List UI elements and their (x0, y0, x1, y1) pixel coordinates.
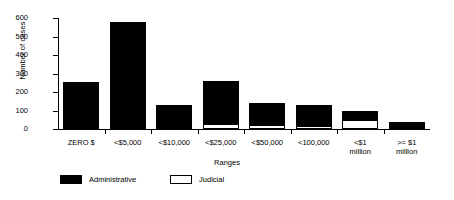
y-axis-tick (53, 111, 58, 112)
x-axis-tick-label: <$1 million (337, 138, 384, 156)
x-axis-tick-label: <$25,000 (198, 138, 245, 147)
legend-swatch-hollow (170, 175, 192, 184)
bar-group[interactable] (203, 81, 239, 129)
x-axis-tick-label: <$10,000 (151, 138, 198, 147)
legend-swatch-filled (60, 175, 82, 184)
bar-segment-administrative[interactable] (156, 105, 192, 129)
bar-segment-administrative[interactable] (203, 81, 239, 124)
y-axis-tick-label: 100 (0, 107, 28, 115)
bar-group[interactable] (63, 82, 99, 129)
x-axis-title: Ranges (0, 158, 454, 167)
y-axis-tick-label: 600 (0, 14, 28, 22)
legend-label: Administrative (89, 175, 136, 184)
x-axis-tick (244, 129, 245, 134)
bar-group[interactable] (342, 111, 378, 129)
bar-segment-administrative[interactable] (342, 111, 378, 120)
y-axis-tick (53, 92, 58, 93)
bar-segment-administrative[interactable] (110, 22, 146, 129)
x-axis-tick (105, 129, 106, 134)
y-axis-tick (53, 129, 58, 130)
y-axis-tick-label: 0 (0, 125, 28, 133)
y-axis-tick (53, 55, 58, 56)
bar-segment-administrative[interactable] (389, 122, 425, 129)
y-axis-line (58, 18, 59, 129)
y-axis-tick-label: 200 (0, 88, 28, 96)
bar-segment-judicial[interactable] (203, 124, 239, 129)
x-axis-tick-label: <$50,000 (244, 138, 291, 147)
x-axis-tick (337, 129, 338, 134)
bar-group[interactable] (156, 105, 192, 129)
bar-group[interactable] (389, 122, 425, 129)
bar-segment-administrative[interactable] (249, 103, 285, 125)
x-axis-tick (384, 129, 385, 134)
legend-label: Judicial (199, 175, 224, 184)
y-axis-tick-label: 300 (0, 70, 28, 78)
bar-segment-administrative[interactable] (63, 82, 99, 129)
x-axis-tick-label: <$5,000 (105, 138, 152, 147)
bar-segment-judicial[interactable] (249, 125, 285, 129)
x-axis-tick (151, 129, 152, 134)
x-axis-tick (291, 129, 292, 134)
bar-segment-administrative[interactable] (296, 105, 332, 126)
x-axis-tick-label: ZERO $ (58, 138, 105, 147)
plot-area: 0100200300400500600 (58, 18, 430, 129)
y-axis-tick-label: 400 (0, 51, 28, 59)
y-axis-tick-label: 500 (0, 33, 28, 41)
bar-segment-judicial[interactable] (296, 126, 332, 129)
x-axis-tick (198, 129, 199, 134)
bar-chart-figure: Number of cases 0100200300400500600 ZERO… (0, 0, 454, 200)
bar-group[interactable] (249, 103, 285, 129)
x-axis-tick-label: <100,000 (291, 138, 338, 147)
bar-group[interactable] (296, 105, 332, 129)
bar-group[interactable] (110, 22, 146, 129)
y-axis-tick (53, 18, 58, 19)
y-axis-tick (53, 74, 58, 75)
legend-entry[interactable]: Judicial (170, 175, 224, 184)
chart-legend: AdministrativeJudicial (60, 172, 224, 186)
y-axis-tick (53, 37, 58, 38)
bar-segment-judicial[interactable] (342, 120, 378, 129)
x-axis-tick-label: >= $1 million (384, 138, 431, 156)
legend-entry[interactable]: Administrative (60, 175, 136, 184)
